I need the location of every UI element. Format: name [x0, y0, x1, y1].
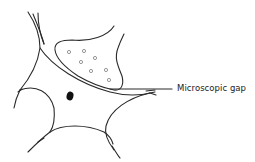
postsynaptic-cell: [14, 12, 156, 158]
synapse-diagram: [0, 0, 255, 162]
vesicle: [79, 60, 82, 63]
vesicle: [82, 49, 85, 52]
dendrite-bottom-left: [28, 132, 50, 152]
nucleus: [66, 91, 75, 101]
vesicle: [93, 56, 96, 59]
cell-edge-bottom: [50, 126, 113, 144]
dendrite-right-b: [146, 90, 155, 91]
vesicle: [67, 50, 70, 53]
dendrite-right: [150, 93, 156, 95]
vesicle: [104, 68, 107, 71]
vesicle: [107, 78, 110, 81]
cell-edge-left-notch: [20, 88, 54, 132]
dendrite-left: [14, 90, 20, 108]
presynaptic-terminal: [55, 26, 124, 90]
terminal-outline: [55, 26, 124, 90]
dendrite-bottom-right: [112, 146, 120, 158]
microscopic-gap-label: Microscopic gap: [177, 83, 246, 93]
cell-edge-cleft: [40, 48, 155, 95]
dendrite-bottom-left-tip: [38, 138, 44, 142]
vesicle: [89, 69, 92, 72]
